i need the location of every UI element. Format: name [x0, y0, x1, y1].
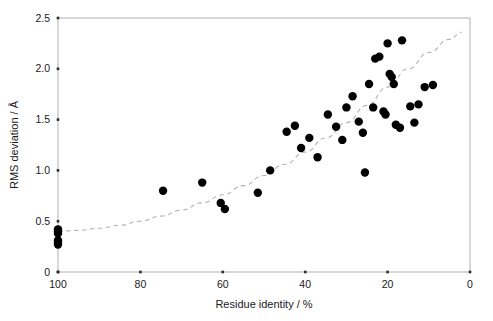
data-point — [388, 73, 396, 81]
data-point — [198, 178, 206, 186]
data-point — [332, 123, 340, 131]
data-point — [342, 103, 350, 111]
data-point — [429, 81, 437, 89]
y-tick-label: 1.0 — [35, 164, 50, 176]
y-tick-label: 2.5 — [35, 12, 50, 24]
data-point — [390, 80, 398, 88]
y-tick-label: 1.5 — [35, 113, 50, 125]
x-tick-label: 80 — [135, 278, 147, 290]
data-point — [420, 83, 428, 91]
data-point — [383, 39, 391, 47]
data-point — [266, 166, 274, 174]
x-tick-label: 60 — [217, 278, 229, 290]
data-points — [54, 36, 437, 249]
chart-figure: 00.51.01.52.02.5100806040200 Residue ide… — [0, 0, 493, 321]
data-point — [410, 118, 418, 126]
data-point — [365, 80, 373, 88]
data-point — [324, 110, 332, 118]
x-tick-label: 0 — [467, 278, 473, 290]
x-axis-title: Residue identity / % — [215, 298, 312, 310]
x-tick-label: 20 — [382, 278, 394, 290]
data-point — [254, 189, 262, 197]
data-point — [361, 168, 369, 176]
trend-curve — [58, 32, 462, 231]
x-tick-label: 100 — [49, 278, 67, 290]
data-point — [305, 134, 313, 142]
data-point — [381, 110, 389, 118]
data-point — [355, 117, 363, 125]
data-point — [406, 102, 414, 110]
data-point — [313, 153, 321, 161]
data-point — [291, 122, 299, 130]
trend-line — [58, 32, 462, 231]
y-axis-title: RMS deviation / Å — [8, 100, 20, 189]
x-tick-label: 40 — [299, 278, 311, 290]
data-point — [359, 129, 367, 137]
y-tick-label: 2.0 — [35, 62, 50, 74]
data-point — [414, 100, 422, 108]
data-point — [159, 187, 167, 195]
data-point — [221, 205, 229, 213]
data-point — [369, 103, 377, 111]
axis-ticks — [57, 17, 472, 274]
scatter-plot: 00.51.01.52.02.5100806040200 Residue ide… — [0, 0, 493, 321]
data-point — [348, 92, 356, 100]
data-point — [297, 144, 305, 152]
y-tick-label: 0.5 — [35, 215, 50, 227]
data-point — [338, 136, 346, 144]
tick-labels: 00.51.01.52.02.5100806040200 — [35, 12, 473, 290]
data-point — [398, 36, 406, 44]
data-point — [282, 128, 290, 136]
data-point — [54, 240, 62, 248]
plot-frame — [58, 18, 470, 272]
y-tick-label: 0 — [44, 266, 50, 278]
data-point — [375, 52, 383, 60]
data-point — [396, 124, 404, 132]
